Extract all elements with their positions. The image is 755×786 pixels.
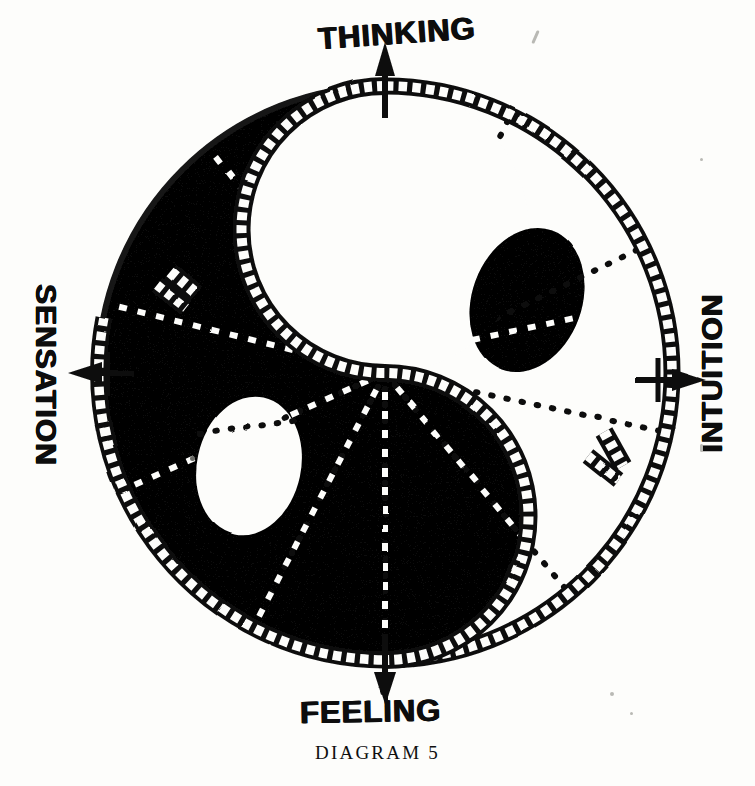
diagram-canvas: THINKING FEELING SENSATION INTUITION DIA…	[0, 0, 755, 786]
paper-speck	[630, 712, 633, 715]
axis-label-feeling: FEELING	[300, 693, 442, 731]
paper-speck	[190, 456, 195, 461]
yin-yang-figure	[0, 0, 755, 786]
paper-speck	[700, 158, 703, 161]
figure-body	[68, 42, 706, 706]
paper-speck	[700, 444, 703, 452]
paper-speck	[610, 692, 614, 696]
figure-caption: DIAGRAM 5	[0, 742, 755, 764]
axis-label-sensation: SENSATION	[29, 268, 63, 483]
